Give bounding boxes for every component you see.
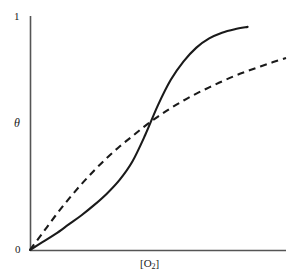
- hyperbolic-curve: [30, 58, 286, 250]
- y-axis-tick-top: 1: [14, 11, 20, 22]
- x-axis-label: [O2]: [140, 258, 159, 271]
- plot-area: [0, 0, 292, 278]
- x-axis-label-prefix: [O: [140, 257, 152, 269]
- x-axis-label-suffix: ]: [156, 257, 160, 269]
- oxygen-binding-curve-figure: 1 0 θ [O2]: [0, 0, 292, 278]
- y-axis-label-theta: θ: [14, 117, 20, 129]
- sigmoidal-curve: [30, 27, 248, 250]
- y-axis-tick-zero: 0: [15, 244, 21, 255]
